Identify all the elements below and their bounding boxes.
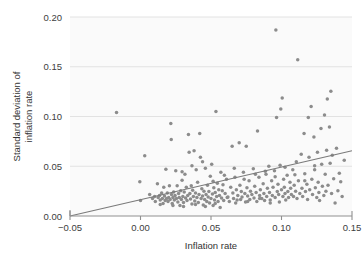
data-point [190, 164, 194, 168]
data-point [279, 107, 283, 111]
data-point [185, 199, 189, 203]
data-point [320, 163, 324, 167]
data-point [312, 135, 316, 139]
data-point [332, 177, 336, 181]
data-point [340, 195, 344, 199]
data-point [232, 197, 236, 201]
data-point [198, 132, 202, 136]
data-point [258, 197, 262, 201]
data-point [293, 173, 297, 177]
data-point [302, 132, 306, 136]
y-axis-title-line2: inflation rate [23, 91, 34, 143]
data-point [323, 172, 327, 176]
data-point [240, 195, 244, 199]
data-point [210, 163, 214, 167]
x-tick-label: 0.00 [131, 222, 150, 233]
data-point [278, 200, 282, 204]
data-point [231, 191, 235, 195]
data-point [225, 196, 229, 200]
data-point [252, 196, 256, 200]
data-point [221, 183, 225, 187]
data-point [192, 195, 196, 199]
data-point [313, 168, 317, 172]
data-point [173, 194, 177, 198]
data-point [204, 166, 208, 170]
data-point [259, 188, 263, 192]
data-point [276, 182, 280, 186]
data-point [213, 191, 217, 195]
data-point [242, 170, 246, 174]
data-point [313, 164, 317, 168]
data-point [209, 174, 213, 178]
data-point [321, 184, 325, 188]
data-point [187, 151, 191, 155]
data-point [292, 195, 296, 199]
data-point [339, 180, 343, 184]
data-point [289, 186, 293, 190]
data-point [219, 170, 223, 174]
data-point [194, 191, 198, 195]
data-point [271, 185, 275, 189]
data-point [276, 190, 280, 194]
data-point [252, 167, 256, 171]
data-point [194, 203, 198, 207]
data-point [343, 159, 347, 163]
data-point [315, 196, 319, 200]
data-point [193, 199, 197, 203]
data-point [280, 96, 284, 100]
data-point [236, 194, 240, 198]
data-point [309, 105, 313, 109]
data-point [306, 198, 310, 202]
data-point [323, 113, 327, 117]
data-point [283, 185, 287, 189]
data-point [195, 196, 199, 200]
data-point [221, 189, 225, 193]
x-tick-label: 0.05 [202, 222, 221, 233]
data-point [285, 173, 289, 177]
data-point [204, 205, 208, 209]
data-point [242, 177, 246, 181]
data-point [162, 185, 166, 189]
data-point [307, 116, 311, 120]
data-point [338, 171, 342, 175]
data-point [288, 180, 292, 184]
data-point [286, 190, 290, 194]
data-point [301, 195, 305, 199]
data-point [217, 188, 221, 192]
data-point [212, 186, 216, 190]
x-tick-label: −0.05 [58, 222, 82, 233]
y-tick-label: 0.00 [44, 211, 63, 222]
data-point [311, 193, 315, 197]
data-point [281, 195, 285, 199]
x-axis-title: Inflation rate [185, 240, 237, 251]
data-point [268, 201, 272, 205]
scatter-chart-figure: −0.050.000.050.100.15 0.000.050.100.150.… [0, 0, 364, 262]
data-point [335, 147, 339, 151]
data-point [202, 189, 206, 193]
data-point [243, 192, 247, 196]
x-tick-label: 0.10 [272, 222, 291, 233]
data-point [322, 194, 326, 198]
data-point [174, 169, 178, 173]
data-point [316, 180, 320, 184]
data-point [183, 172, 187, 176]
data-point [265, 195, 269, 199]
data-point [275, 116, 279, 120]
data-point [318, 199, 322, 203]
data-point [222, 199, 226, 203]
data-point [208, 201, 212, 205]
data-point [274, 28, 278, 32]
data-point [164, 167, 168, 171]
data-point [294, 189, 298, 193]
data-point [333, 201, 337, 205]
data-point [319, 127, 323, 131]
y-tick-label: 0.05 [44, 161, 63, 172]
data-point [326, 183, 330, 187]
data-point [234, 201, 238, 205]
y-axis-title-line1: Standard deviation of [11, 71, 22, 161]
data-point [326, 97, 330, 101]
data-point [271, 194, 275, 198]
data-point [228, 200, 232, 204]
data-point [197, 193, 201, 197]
data-point [158, 203, 162, 207]
